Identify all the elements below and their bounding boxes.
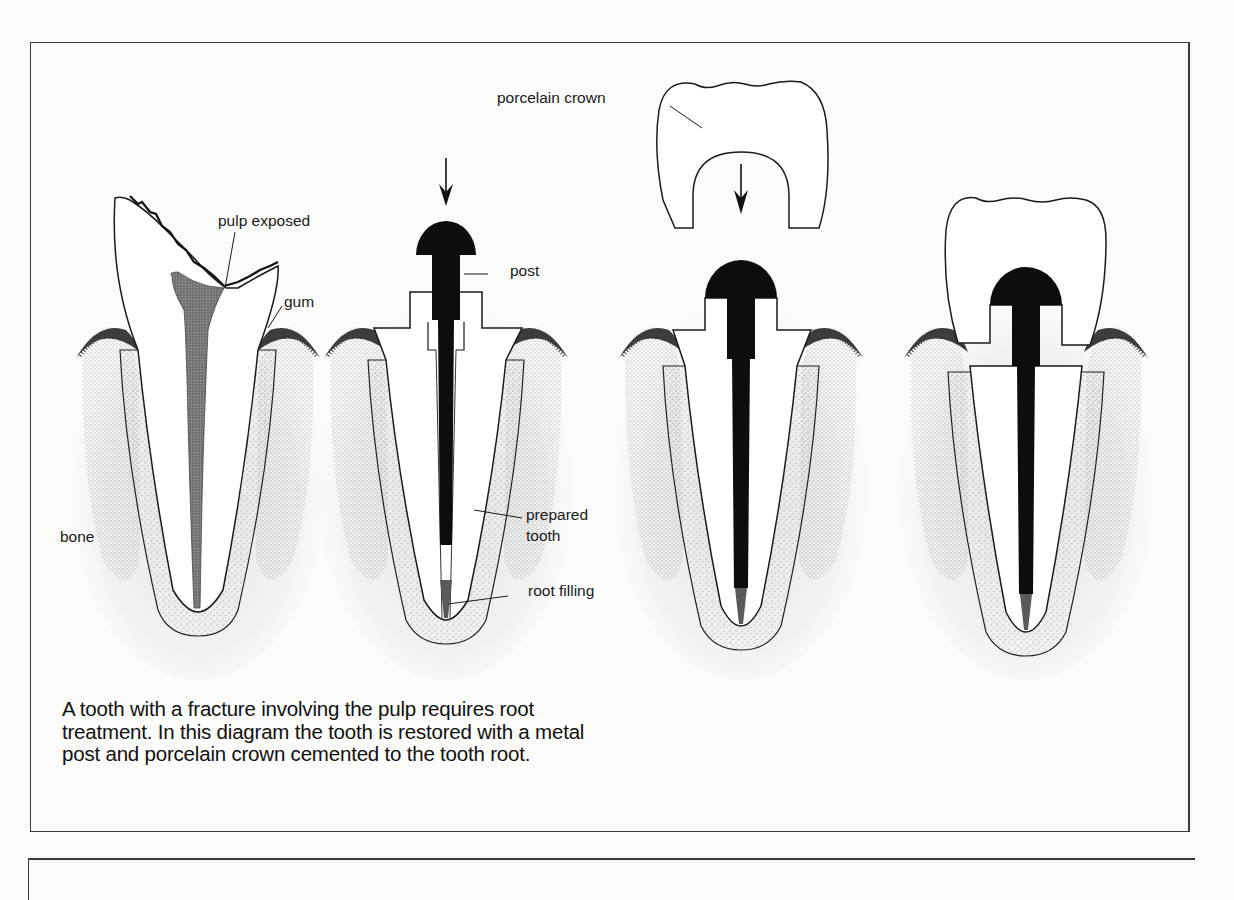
label-gum: gum — [284, 293, 314, 310]
label-prepared-line2: tooth — [526, 527, 560, 544]
figure-caption: A tooth with a fracture involving the pu… — [62, 698, 622, 766]
label-bone: bone — [60, 528, 94, 545]
label-post: post — [510, 262, 540, 279]
label-porcelain-crown: porcelain crown — [497, 89, 606, 106]
label-pulp-exposed: pulp exposed — [218, 212, 310, 229]
stage-fractured-tooth — [68, 196, 328, 680]
stage-crown-placement — [611, 81, 871, 680]
stage-restored-tooth — [896, 198, 1156, 680]
label-prepared-line1: prepared — [526, 506, 588, 523]
label-root-filling: root filling — [528, 582, 594, 599]
stage-post-insertion — [316, 158, 576, 680]
